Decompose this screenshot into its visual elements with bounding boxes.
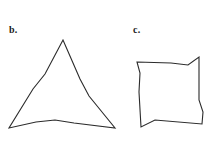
shape-concave-quadrilateral: [137, 57, 203, 127]
panel-label-c: c.: [133, 25, 140, 35]
panel-label-b: b.: [9, 25, 17, 35]
figure-canvas: [0, 0, 212, 145]
shape-concave-triangle: [9, 40, 115, 128]
